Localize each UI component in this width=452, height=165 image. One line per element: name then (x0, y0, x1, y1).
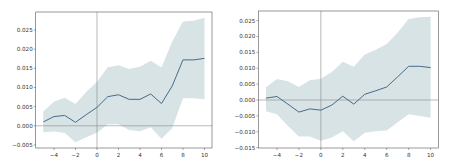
x-tick-label: −4 (273, 152, 282, 158)
y-tick-label: −0.005 (12, 142, 33, 148)
x-tick-label: 10 (427, 152, 435, 158)
x-tick-label: 4 (138, 152, 142, 158)
y-tick-label: 0.005 (239, 81, 255, 87)
y-tick-label: 0.010 (17, 84, 33, 90)
y-tick-label: 0.005 (17, 104, 33, 110)
y-tick-label: −0.010 (235, 129, 256, 135)
y-tick-label: 0.000 (239, 97, 255, 103)
y-tick-label: 0.015 (17, 65, 33, 71)
y-tick-label: 0.020 (239, 33, 255, 39)
x-tick-label: −4 (50, 152, 59, 158)
y-tick-label: 0.010 (239, 65, 255, 71)
x-tick-label: 0 (319, 152, 323, 158)
x-tick-label: −2 (295, 152, 303, 158)
confidence-band (266, 17, 431, 142)
x-tick-label: 10 (201, 152, 209, 158)
chart-right: −4−20246810−0.015−0.010−0.0050.0000.0050… (235, 11, 439, 158)
y-tick-label: 0.025 (17, 27, 33, 33)
y-tick-label: 0.015 (239, 49, 255, 55)
x-tick-label: 8 (407, 152, 411, 158)
x-tick-label: 0 (95, 152, 99, 158)
x-tick-label: 8 (181, 152, 185, 158)
y-tick-label: 0.025 (239, 18, 255, 24)
figure: −4−20246810−0.0050.0000.0050.0100.0150.0… (0, 0, 452, 165)
x-tick-label: −2 (71, 152, 79, 158)
x-tick-label: 2 (117, 152, 121, 158)
chart-left: −4−20246810−0.0050.0000.0050.0100.0150.0… (12, 12, 212, 158)
y-tick-label: −0.015 (235, 145, 256, 151)
y-tick-label: 0.020 (17, 46, 33, 52)
y-tick-label: 0.000 (17, 123, 33, 129)
x-tick-label: 6 (385, 152, 389, 158)
y-tick-label: −0.005 (235, 113, 256, 119)
x-tick-label: 2 (341, 152, 345, 158)
x-tick-label: 4 (363, 152, 367, 158)
confidence-band (43, 18, 204, 143)
x-tick-label: 6 (160, 152, 164, 158)
